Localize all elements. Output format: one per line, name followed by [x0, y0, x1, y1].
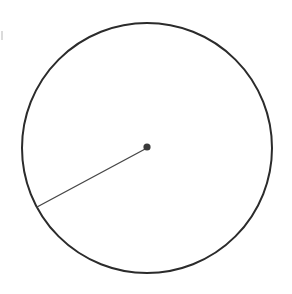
edge-artifact-mark	[1, 31, 3, 40]
center-point	[143, 143, 150, 150]
circle-diagram-canvas	[0, 0, 292, 294]
figure-container: Circle with a single radius drawn from t…	[0, 0, 292, 294]
